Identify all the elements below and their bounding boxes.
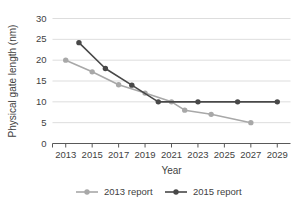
line-chart: 051015202530 201320152017201920212023202…	[0, 0, 306, 210]
y-axis-group: 051015202530	[36, 13, 291, 149]
x-tick-label-2027: 2027	[240, 149, 261, 160]
series-1	[63, 57, 254, 125]
data-point	[129, 82, 134, 87]
legend-label: 2013 report	[104, 186, 153, 197]
legend-label: 2015 report	[193, 186, 242, 197]
x-tick-label-2023: 2023	[187, 149, 208, 160]
series-line-2	[79, 43, 277, 102]
data-point	[63, 57, 68, 62]
y-tick-label-25: 25	[36, 33, 47, 44]
legend-item-2[interactable]: 2015 report	[165, 186, 242, 197]
data-point	[208, 112, 213, 117]
series-2	[76, 40, 280, 105]
plot-series-group	[63, 40, 280, 125]
x-axis-group: 201320152017201920212023202520272029	[53, 144, 288, 161]
data-point	[182, 107, 187, 112]
y-tick-label-15: 15	[36, 75, 47, 86]
x-tick-label-2015: 2015	[82, 149, 103, 160]
y-tick-label-30: 30	[36, 13, 47, 24]
data-point	[235, 99, 240, 104]
legend-swatch-marker	[173, 189, 178, 194]
data-point	[248, 120, 253, 125]
x-tick-label-2013: 2013	[55, 149, 76, 160]
legend-swatch-marker	[84, 189, 89, 194]
x-tick-label-2021: 2021	[161, 149, 182, 160]
x-tick-label-2019: 2019	[134, 149, 155, 160]
legend-item-1[interactable]: 2013 report	[76, 186, 153, 197]
x-tick-label-2025: 2025	[214, 149, 235, 160]
data-point	[275, 99, 280, 104]
y-tick-label-0: 0	[41, 138, 46, 149]
data-point	[103, 66, 108, 71]
x-tick-label-2017: 2017	[108, 149, 129, 160]
data-point	[156, 99, 161, 104]
data-point	[89, 69, 94, 74]
chart-canvas: 051015202530 201320152017201920212023202…	[0, 0, 306, 210]
data-point	[76, 40, 81, 45]
x-axis-title: Year	[161, 165, 182, 176]
data-point	[116, 82, 121, 87]
y-tick-label-20: 20	[36, 54, 47, 65]
data-point	[195, 99, 200, 104]
legend-group: 2013 report2015 report	[76, 186, 242, 197]
y-tick-label-10: 10	[36, 96, 47, 107]
x-tick-label-2029: 2029	[267, 149, 288, 160]
y-tick-label-5: 5	[41, 117, 46, 128]
y-axis-title: Physical gate length (nm)	[7, 25, 18, 138]
